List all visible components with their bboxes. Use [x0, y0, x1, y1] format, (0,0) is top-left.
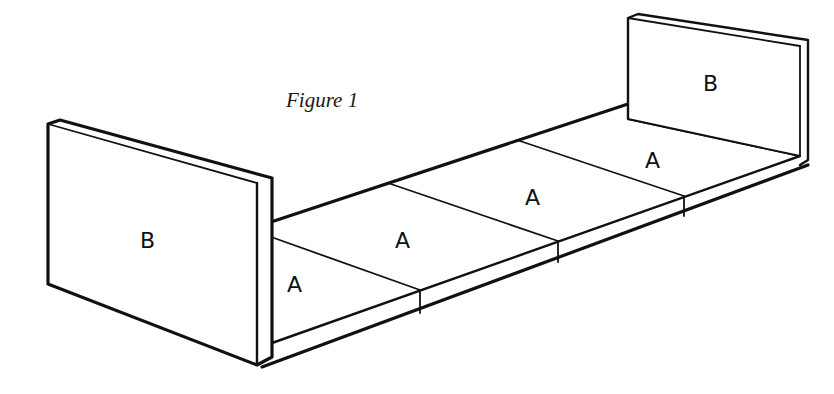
right-panel-label: B: [703, 71, 718, 96]
floor-panel-label-3: A: [525, 185, 540, 210]
floor-panel-label-4: A: [645, 148, 660, 173]
left-panel: [48, 120, 272, 365]
floor-panel-label-2: A: [395, 228, 410, 253]
figure-caption: Figure 1: [285, 88, 358, 112]
assembly-diagram: Figure 1 B B A A A A: [0, 0, 834, 394]
left-panel-side: [257, 178, 272, 365]
floor-panel-label-1: A: [287, 272, 302, 297]
floor: [262, 104, 808, 367]
left-panel-label: B: [140, 228, 155, 253]
